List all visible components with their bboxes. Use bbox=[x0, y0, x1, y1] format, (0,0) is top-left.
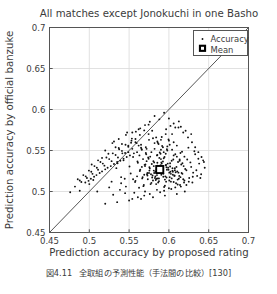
scatter-point bbox=[167, 167, 169, 169]
scatter-point bbox=[192, 176, 194, 178]
scatter-point bbox=[168, 179, 170, 181]
scatter-point bbox=[88, 183, 90, 185]
scatter-point bbox=[132, 156, 134, 158]
scatter-point bbox=[174, 153, 176, 155]
scatter-point bbox=[151, 130, 153, 132]
scatter-point bbox=[170, 188, 172, 190]
scatter-point bbox=[96, 174, 98, 176]
scatter-point bbox=[116, 161, 118, 163]
scatter-point bbox=[113, 163, 115, 165]
scatter-point bbox=[124, 178, 126, 180]
scatter-point bbox=[180, 186, 182, 188]
scatter-point bbox=[166, 177, 168, 179]
scatter-point bbox=[168, 138, 170, 140]
scatter-point bbox=[161, 136, 163, 138]
scatter-point bbox=[112, 194, 114, 196]
scatter-point bbox=[135, 138, 137, 140]
scatter-point bbox=[104, 168, 106, 170]
scatter-point bbox=[149, 193, 151, 195]
scatter-point bbox=[187, 136, 189, 138]
x-tick-label: 0.6 bbox=[162, 236, 176, 246]
scatter-point bbox=[173, 181, 175, 183]
scatter-point bbox=[141, 166, 143, 168]
scatter-point bbox=[143, 129, 145, 131]
scatter-point bbox=[127, 151, 129, 153]
scatter-point bbox=[120, 176, 122, 178]
scatter-point bbox=[150, 183, 152, 185]
scatter-point bbox=[117, 157, 119, 159]
scatter-point bbox=[170, 125, 172, 127]
scatter-point bbox=[173, 122, 175, 124]
scatter-point bbox=[191, 182, 193, 184]
scatter-point bbox=[148, 170, 150, 172]
figure-caption-text: 全取組の予測性能（手法間の比較）[130] bbox=[79, 268, 231, 278]
scatter-point bbox=[111, 181, 113, 183]
scatter-point bbox=[118, 138, 120, 140]
scatter-point bbox=[131, 140, 133, 142]
scatter-point bbox=[148, 166, 150, 168]
scatter-point bbox=[121, 143, 123, 145]
scatter-point bbox=[179, 176, 181, 178]
scatter-point bbox=[174, 127, 176, 129]
scatter-point bbox=[146, 175, 148, 177]
scatter-point bbox=[146, 148, 148, 150]
scatter-point bbox=[104, 203, 106, 205]
scatter-point bbox=[156, 141, 158, 143]
figure-container: All matches except Jonokuchi in one Bash… bbox=[0, 0, 277, 294]
scatter-point bbox=[173, 141, 175, 143]
scatter-point bbox=[139, 134, 141, 136]
scatter-point bbox=[90, 171, 92, 173]
scatter-point bbox=[111, 160, 113, 162]
scatter-point bbox=[157, 177, 159, 179]
scatter-point bbox=[163, 190, 165, 192]
scatter-point bbox=[176, 145, 178, 147]
scatter-point bbox=[141, 177, 143, 179]
x-tick-label: 0.7 bbox=[242, 236, 256, 246]
scatter-point bbox=[123, 158, 125, 160]
scatter-point bbox=[162, 161, 164, 163]
scatter-point bbox=[165, 164, 167, 166]
scatter-point bbox=[99, 172, 101, 174]
scatter-point bbox=[167, 163, 169, 165]
scatter-point bbox=[196, 175, 198, 177]
scatter-point bbox=[154, 175, 156, 177]
scatter-point bbox=[156, 189, 158, 191]
scatter-point bbox=[150, 151, 152, 153]
scatter-point bbox=[169, 144, 171, 146]
scatter-point bbox=[175, 171, 177, 173]
scatter-point bbox=[146, 160, 148, 162]
scatter-point bbox=[166, 166, 168, 168]
scatter-point bbox=[148, 172, 150, 174]
figure-caption-number: 図4.11 bbox=[46, 268, 73, 278]
scatter-point bbox=[140, 144, 142, 146]
scatter-point bbox=[129, 154, 131, 156]
scatter-point bbox=[107, 167, 109, 169]
scatter-point bbox=[125, 186, 127, 188]
scatter-point bbox=[93, 176, 95, 178]
scatter-point bbox=[165, 181, 167, 183]
scatter-point bbox=[116, 201, 118, 203]
scatter-point bbox=[153, 165, 155, 167]
scatter-point bbox=[153, 172, 155, 174]
scatter-point bbox=[137, 161, 139, 163]
scatter-point bbox=[161, 145, 163, 147]
scatter-point bbox=[192, 172, 194, 174]
scatter-point bbox=[148, 124, 150, 126]
scatter-point bbox=[150, 173, 152, 175]
scatter-point bbox=[186, 159, 188, 161]
scatter-point bbox=[181, 172, 183, 174]
scatter-point bbox=[113, 141, 115, 143]
scatter-point bbox=[190, 133, 192, 135]
scatter-point bbox=[174, 167, 176, 169]
scatter-point bbox=[170, 181, 172, 183]
scatter-point bbox=[136, 175, 138, 177]
scatter-point bbox=[137, 196, 139, 198]
scatter-point bbox=[125, 134, 127, 136]
scatter-point bbox=[171, 133, 173, 135]
scatter-point bbox=[172, 167, 174, 169]
scatter-point bbox=[104, 150, 106, 152]
scatter-point bbox=[158, 157, 160, 159]
scatter-point bbox=[179, 159, 181, 161]
scatter-point bbox=[145, 152, 147, 154]
scatter-point bbox=[183, 179, 185, 181]
